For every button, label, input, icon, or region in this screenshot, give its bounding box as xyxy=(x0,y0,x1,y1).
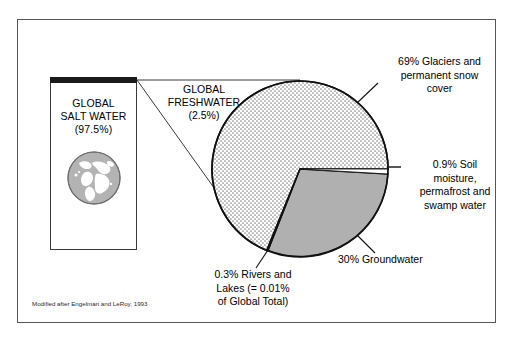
freshwater-pie-chart xyxy=(206,74,398,266)
soil-line-2: moisture, xyxy=(397,172,513,186)
annotation-soil-moisture: 0.9% Soil moisture, permafrost and swamp… xyxy=(397,158,513,212)
rivers-line-2: Lakes (= 0.01% xyxy=(178,282,328,296)
annotation-rivers-and-lakes: 0.3% Rivers and Lakes (= 0.01% of Global… xyxy=(178,268,328,309)
annotation-groundwater: 30% Groundwater xyxy=(338,253,498,267)
figure-credit: Modified after Engelman and LeRoy, 1993 xyxy=(32,300,147,308)
soil-line-3: permafrost and xyxy=(397,185,513,199)
salt-water-line-2: SALT WATER xyxy=(50,110,137,123)
salt-water-line-3: (97.5%) xyxy=(50,123,137,136)
glaciers-line-3: cover xyxy=(372,82,507,96)
rivers-line-1: 0.3% Rivers and xyxy=(178,268,328,282)
glaciers-line-2: permanent snow xyxy=(372,69,507,83)
soil-line-4: swamp water xyxy=(397,199,513,213)
rivers-line-3: of Global Total) xyxy=(178,295,328,309)
annotation-glaciers: 69% Glaciers and permanent snow cover xyxy=(372,55,507,96)
salt-water-cap-bar xyxy=(50,77,137,83)
salt-water-line-1: GLOBAL xyxy=(50,97,137,110)
groundwater-line-1: 30% Groundwater xyxy=(338,253,498,267)
globe-icon xyxy=(66,150,122,206)
figure-canvas: GLOBAL SALT WATER (97.5%) GLOBAL FRESHWA… xyxy=(0,0,515,342)
glaciers-line-1: 69% Glaciers and xyxy=(372,55,507,69)
soil-line-1: 0.9% Soil xyxy=(397,158,513,172)
salt-water-label: GLOBAL SALT WATER (97.5%) xyxy=(50,97,137,136)
